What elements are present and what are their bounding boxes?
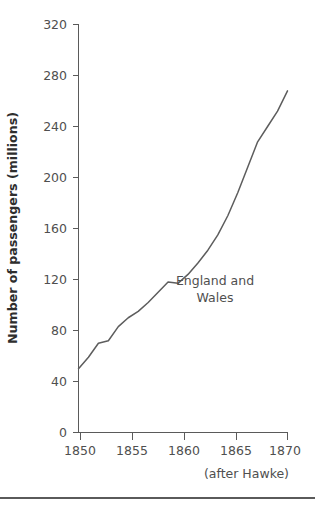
y-axis-title: Number of passengers (millions) — [5, 112, 20, 344]
x-tick-label-1855: 1855 — [116, 443, 148, 458]
x-tick-label-1860: 1860 — [168, 443, 200, 458]
y-tick-label-240: 240 — [43, 119, 67, 134]
y-tick-label-80: 80 — [51, 323, 67, 338]
x-tick-label-1865: 1865 — [220, 443, 252, 458]
data-line-england-and-wales — [79, 91, 288, 369]
y-tick-label-0: 0 — [59, 425, 67, 440]
x-axis-tick-labels: 1850 1855 1860 1865 1870 — [64, 443, 301, 458]
source-credit: (after Hawke) — [204, 466, 289, 481]
y-tick-label-280: 280 — [43, 68, 67, 83]
y-axis-ticks — [73, 25, 79, 433]
y-axis-tick-labels: 320 280 240 200 160 120 80 40 0 — [43, 17, 67, 440]
x-tick-label-1870: 1870 — [269, 443, 301, 458]
chart-figure: 320 280 240 200 160 120 80 40 0 Number o… — [0, 0, 315, 509]
y-tick-label-40: 40 — [51, 374, 67, 389]
series-annotation-line2: Wales — [197, 290, 234, 305]
footer-divider — [0, 497, 315, 499]
y-tick-label-120: 120 — [43, 272, 67, 287]
x-tick-label-1850: 1850 — [64, 443, 96, 458]
series-annotation-line1: England and — [176, 273, 254, 288]
x-axis-ticks — [81, 433, 288, 440]
y-tick-label-160: 160 — [43, 221, 67, 236]
line-chart: 320 280 240 200 160 120 80 40 0 Number o… — [0, 0, 315, 509]
y-tick-label-200: 200 — [43, 170, 67, 185]
y-tick-label-320: 320 — [43, 17, 67, 32]
